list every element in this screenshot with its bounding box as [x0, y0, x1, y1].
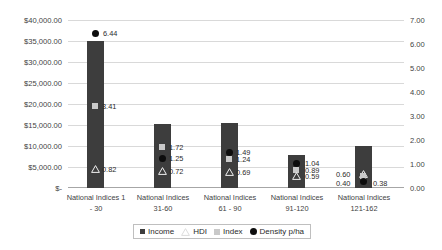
legend-item-hdi[interactable]: HDI [181, 227, 207, 236]
label-density-group-1: 6.44 [103, 29, 117, 38]
legend-label-density: Density p/ha [260, 227, 304, 236]
label-index-group-3: 1.24 [236, 155, 250, 164]
legend-label-hdi: HDI [193, 227, 207, 236]
gridline [68, 83, 404, 84]
legend-label-income: Income [148, 227, 174, 236]
label-density-group-2: 1.25 [169, 154, 183, 163]
right-axis-tick-4: 4.00 [410, 88, 440, 97]
gridline [68, 104, 404, 105]
marker-density-group-1[interactable] [92, 30, 99, 37]
right-axis-tick-2: 2.00 [410, 136, 440, 145]
legend-item-income[interactable]: Income [140, 227, 174, 236]
right-axis-tick-5: 5.00 [410, 64, 440, 73]
marker-density-group-5[interactable] [360, 178, 367, 185]
left-axis-tick-25000: $25,000.00 [0, 79, 62, 88]
label-hdi-group-5: 0.38 [373, 179, 387, 188]
marker-index-group-1[interactable] [92, 103, 98, 109]
label-hdi-group-3: 0.69 [236, 168, 250, 177]
category-line-5b: 121-162 [321, 204, 407, 215]
marker-density-group-4[interactable] [293, 160, 300, 167]
left-axis-tick-35000: $35,000.00 [0, 37, 62, 46]
marker-hdi-group-1[interactable] [91, 165, 99, 172]
label-hdi-group-2: 0.72 [169, 167, 183, 176]
marker-density-group-2[interactable] [159, 155, 166, 162]
gridline [68, 41, 404, 42]
label-index-group-1: 3.41 [102, 102, 116, 111]
left-axis-tick-0: $- [0, 184, 62, 193]
right-axis-tick-0: 0.00 [410, 184, 440, 193]
legend: Income HDI Index Density p/ha [133, 224, 311, 239]
left-axis-tick-20000: $20,000.00 [0, 100, 62, 109]
left-axis-tick-10000: $10,000.00 [0, 142, 62, 151]
label-index-group-5: 0.60 [336, 170, 350, 179]
legend-item-density[interactable]: Density p/ha [250, 227, 304, 236]
label-index-group-2: 1.72 [169, 143, 183, 152]
marker-hdi-group-3[interactable] [225, 168, 233, 175]
marker-density-group-3[interactable] [226, 149, 233, 156]
label-hdi-group-4: 0.59 [305, 172, 319, 181]
square-gray-icon [214, 229, 220, 235]
gridline [68, 20, 404, 21]
marker-hdi-group-4[interactable] [292, 172, 300, 179]
legend-item-index[interactable]: Index [214, 227, 243, 236]
category-label-group-5: National Indices 121-162 [321, 193, 407, 214]
right-axis-tick-3: 3.00 [410, 112, 440, 121]
category-line-5a: National Indices [321, 193, 407, 204]
marker-index-group-2[interactable] [159, 144, 165, 150]
circle-black-icon [250, 228, 257, 235]
legend-label-index: Index [223, 227, 243, 236]
marker-index-group-3[interactable] [226, 156, 232, 162]
label-hdi-group-1: 0.82 [102, 165, 116, 174]
right-axis-tick-7: 7.00 [410, 16, 440, 25]
plot-area: 6.44 3.41 0.82 1.72 1.25 0.72 1.49 1.24 [68, 20, 404, 188]
gridline [68, 62, 404, 63]
right-axis-tick-6: 6.00 [410, 40, 440, 49]
square-dark-icon [140, 229, 145, 234]
label-density-group-5: 0.40 [336, 179, 350, 188]
right-axis-tick-1: 1.00 [410, 160, 440, 169]
left-axis-tick-15000: $15,000.00 [0, 121, 62, 130]
marker-hdi-group-2[interactable] [158, 167, 166, 174]
left-axis-tick-5000: $5,000.00 [0, 163, 62, 172]
left-axis-tick-40000: $40,000.00 [0, 16, 62, 25]
left-axis-tick-30000: $30,000.00 [0, 58, 62, 67]
triangle-outline-icon [181, 228, 190, 236]
chart-container: $40,000.00 $35,000.00 $30,000.00 $25,000… [0, 0, 442, 250]
